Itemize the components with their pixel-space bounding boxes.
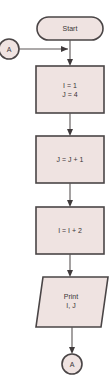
init-label-line1: I = 1 <box>63 82 77 89</box>
print-label-line1: Print <box>64 293 78 300</box>
connector-out-label: A <box>70 361 75 368</box>
incj-label: J = J + 1 <box>57 156 84 163</box>
arrow-down-icon <box>69 347 75 354</box>
print-label-line2: I, J <box>66 302 75 309</box>
arrow-down-icon <box>67 270 73 277</box>
inci-label: I = I + 2 <box>58 227 82 234</box>
start-terminal: Start <box>37 17 103 40</box>
arrow-right-icon <box>61 46 68 52</box>
connector-in-label: A <box>7 46 12 53</box>
connector-out: A <box>62 354 82 374</box>
init-label-line2: J = 4 <box>62 91 77 98</box>
connector-in: A <box>0 39 19 59</box>
io-print: Print I, J <box>36 277 108 327</box>
arrow-down-icon <box>67 59 73 66</box>
process-init: I = 1 J = 4 <box>36 66 104 113</box>
flowchart: Start A I = 1 J = 4 J = J + 1 I = I + 2 … <box>0 0 111 391</box>
arrow-down-icon <box>67 200 73 207</box>
process-increment-i: I = I + 2 <box>36 207 104 254</box>
start-label: Start <box>63 25 78 32</box>
process-increment-j: J = J + 1 <box>36 136 104 183</box>
arrow-down-icon <box>67 129 73 136</box>
